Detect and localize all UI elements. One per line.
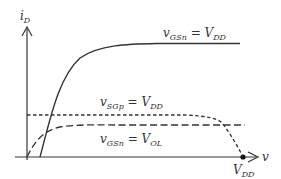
label-vgsn-vol: vGSn = VOL: [100, 132, 162, 148]
x-axis: [15, 152, 258, 162]
label-vgsn-vdd: vGSn = VDD: [163, 26, 227, 42]
cmos-inverter-load-line-diagram: iD v VDD vGSn = VDD vSGp = VDD vGSn = VO…: [0, 0, 281, 179]
label-vsgp-vdd: vSGp = VDD: [100, 95, 164, 111]
vdd-marker-label: VDD: [233, 163, 255, 179]
y-axis-label: iD: [20, 9, 31, 25]
x-axis-label: v: [262, 150, 269, 164]
y-axis: [22, 27, 32, 160]
